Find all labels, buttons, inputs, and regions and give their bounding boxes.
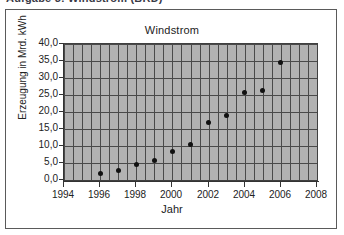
y-axis-tick xyxy=(59,43,64,44)
x-axis-tick xyxy=(316,182,317,187)
y-axis-tick xyxy=(59,162,64,163)
y-axis-tick-label: 0,0 xyxy=(14,174,58,184)
gridline-horizontal xyxy=(64,112,317,113)
gridline-horizontal xyxy=(64,95,317,96)
gridline-horizontal xyxy=(64,78,317,79)
y-axis-tick-label: 40,0 xyxy=(14,38,58,48)
x-axis-tick-label: 1994 xyxy=(43,189,83,200)
y-axis-tick-label: 35,0 xyxy=(14,55,58,65)
y-axis-title: Erzeugung in Mrd. kWh xyxy=(17,0,28,138)
y-axis-tick-label: 30,0 xyxy=(14,72,58,82)
data-point-marker xyxy=(206,120,211,125)
x-axis-tick xyxy=(244,182,245,187)
data-point-marker xyxy=(134,162,139,167)
y-axis-tick xyxy=(59,60,64,61)
x-axis-tick xyxy=(99,182,100,187)
data-point-marker xyxy=(224,113,229,118)
x-axis-tick-label: 1996 xyxy=(79,189,119,200)
plot-area xyxy=(63,43,318,181)
y-axis-tick-label: 10,0 xyxy=(14,140,58,150)
x-axis-tick xyxy=(280,182,281,187)
x-axis-tick-label: 2004 xyxy=(224,189,264,200)
y-axis-tick xyxy=(59,145,64,146)
x-axis-tick-label: 2002 xyxy=(188,189,228,200)
chart-title: Windstrom xyxy=(6,24,338,36)
x-axis-title: Jahr xyxy=(6,203,338,215)
y-axis-tick-label: 25,0 xyxy=(14,89,58,99)
x-axis-tick-label: 2006 xyxy=(260,189,300,200)
x-axis-tick-label: 2000 xyxy=(151,189,191,200)
y-axis-tick xyxy=(59,94,64,95)
caption-text: Aufgabe 3: Windstrom (BRD) xyxy=(6,0,163,4)
caption-strip: Aufgabe 3: Windstrom (BRD) xyxy=(0,0,344,8)
x-axis-tick xyxy=(171,182,172,187)
x-axis-tick xyxy=(208,182,209,187)
data-point-marker xyxy=(98,171,103,176)
gridline-horizontal xyxy=(64,129,317,130)
gridline-horizontal xyxy=(64,163,317,164)
y-axis-tick xyxy=(59,179,64,180)
y-axis-tick xyxy=(59,111,64,112)
y-axis-tick-label: 5,0 xyxy=(14,157,58,167)
y-axis-tick xyxy=(59,77,64,78)
gridline-vertical xyxy=(317,44,318,180)
x-axis-tick xyxy=(63,182,64,187)
y-axis-tick xyxy=(59,128,64,129)
data-point-marker xyxy=(170,149,175,154)
x-axis-tick xyxy=(135,182,136,187)
x-axis-tick-label: 1998 xyxy=(115,189,155,200)
data-point-marker xyxy=(260,88,265,93)
y-axis-tick-label: 15,0 xyxy=(14,123,58,133)
figure-frame: Windstrom Erzeugung in Mrd. kWh 40,035,0… xyxy=(5,9,337,229)
data-point-marker xyxy=(116,168,121,173)
y-axis-tick-label: 20,0 xyxy=(14,106,58,116)
x-axis-tick-label: 2008 xyxy=(296,189,336,200)
gridline-horizontal xyxy=(64,44,317,45)
data-point-marker xyxy=(188,142,193,147)
data-point-marker xyxy=(278,60,283,65)
